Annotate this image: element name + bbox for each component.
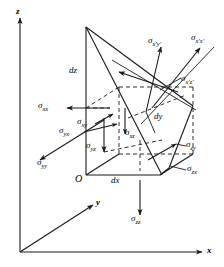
sigma-xpzp-sub: x′z′ [185, 78, 193, 85]
inclined-face-edge-apex-right [86, 27, 193, 106]
inclined-face-edge-apex-left [86, 27, 162, 175]
sigma-zy-label: σzy [186, 140, 196, 151]
sigma-xpxp-label: σx′x′ [191, 33, 204, 44]
sigma-xy-label: σxy [77, 117, 87, 128]
leader-sigma-zx [170, 166, 186, 170]
dy-label: dy [154, 112, 163, 121]
arrow-sigma-yy [40, 120, 104, 160]
arrow-sigma-yx [84, 124, 117, 132]
sigma-xpxp-sub: x′x′ [195, 37, 204, 44]
sigma-yz-label: σyz [86, 141, 96, 152]
sigma-yx-sub: yx [63, 130, 69, 137]
arrow-sigma-xpyp [146, 47, 161, 112]
inclined-face-edge-bottom [160, 168, 169, 175]
z-axis-label: z [16, 7, 20, 16]
sigma-xx-sub: xx [42, 105, 48, 112]
dz-label: dz [69, 66, 77, 75]
dx-label: dx [111, 176, 120, 185]
rotated-stress-arrows [112, 47, 214, 133]
sigma-xpyp-label: σx′y′ [148, 36, 161, 47]
sigma-xz-sub: xz [129, 132, 134, 139]
x-axis-label: x [207, 246, 212, 255]
sigma-zx-sub: zx [191, 168, 196, 175]
sigma-zy-sub: zy [190, 144, 195, 151]
sigma-xx-label: σxx [38, 101, 48, 112]
y-axis-line [20, 205, 93, 252]
global-axes [20, 18, 202, 252]
sigma-zz-sub: zz [135, 218, 140, 225]
inclined-face-edge-right-lower [169, 106, 193, 168]
cube-edge-bottom-left-receding [86, 154, 119, 175]
hidden-edge-back-top [86, 87, 119, 108]
sigma-xpyp-sub: x′y′ [152, 40, 161, 47]
sigma-zx-label: σzx [187, 164, 197, 175]
sigma-zz-label: σzz [131, 214, 141, 225]
arrow-sigma-zy [148, 144, 176, 160]
sigma-yz-sub: yz [90, 145, 95, 152]
origin-label: O [75, 174, 82, 184]
sigma-xz-label: σxz [125, 128, 135, 139]
inclined-face-outline [86, 27, 193, 175]
element-cube-edges [86, 27, 193, 175]
sigma-yy-sub: yy [41, 162, 47, 169]
sigma-xpzp-label: σx′z′ [181, 74, 194, 85]
y-axis-label: y [96, 198, 100, 207]
element-hidden-edges [86, 87, 193, 171]
stress-tetrahedron-figure: z x y O dz dx dy σxx σxy σxz σyx σyy σyz… [0, 0, 224, 267]
hidden-edge-lower-diagonal [104, 140, 162, 152]
sigma-xy-sub: xy [81, 121, 87, 128]
sigma-yx-label: σyx [59, 126, 69, 137]
sigma-yy-label: σyy [37, 158, 47, 169]
